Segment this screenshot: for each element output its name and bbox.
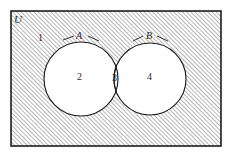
region-label-1: 1 xyxy=(38,33,43,43)
region-label-4: 4 xyxy=(147,72,152,82)
set-a-label: A xyxy=(76,31,82,41)
region-label-2: 2 xyxy=(77,72,82,82)
region-label-3: 3 xyxy=(112,73,117,83)
universal-set-label: U xyxy=(14,14,22,25)
venn-diagram: U A B 1 2 3 4 xyxy=(0,0,232,156)
set-b-label: B xyxy=(146,31,152,41)
